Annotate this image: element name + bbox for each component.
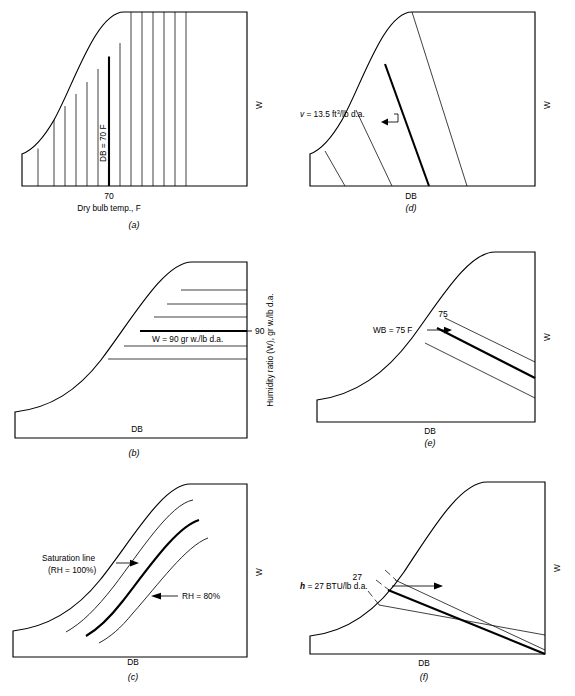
panel-b-y-tick: 90: [255, 326, 265, 336]
panel-c-y-axis-title: W: [254, 568, 264, 576]
panel-d-y-axis-title: W: [542, 101, 552, 109]
panel-d-label-suffix: /lb d.a.: [340, 109, 365, 119]
panel-b-humidity-lines: [108, 290, 247, 359]
panel-c: Saturation line (RH = 100%) RH = 80% DB …: [13, 484, 264, 682]
panel-c-saturation-arrowhead: [130, 560, 139, 567]
panel-e-y-axis-title: W: [542, 333, 552, 341]
panel-c-rh-arrowhead: [151, 593, 161, 600]
panel-d-arrowhead: [381, 119, 388, 126]
panel-a-x-tick: 70: [104, 191, 114, 201]
panel-f-line-label: h = 27 BTU/lb d.a.: [300, 581, 368, 591]
panel-a-line-label: DB = 70 F: [98, 124, 108, 162]
panel-b: 90 W = 90 gr w./lb d.a. DB Humidity rati…: [15, 262, 275, 458]
panel-a-outline: [22, 12, 247, 186]
panel-d: v = 13.5 ft3/lb d.a. DB W (d): [300, 12, 552, 213]
panel-a-db-lines: [38, 12, 186, 186]
panel-f-x-axis-title: DB: [418, 658, 430, 668]
panel-e: 75 WB = 75 F DB W (e): [317, 252, 552, 448]
panel-f: 27 h = 27 BTU/lb d.a. DB W (f): [300, 482, 562, 682]
panel-f-dash-3: [368, 591, 380, 606]
panel-f-y-axis-title: W: [552, 564, 562, 572]
panel-d-label-main: = 13.5 ft: [304, 109, 337, 119]
panel-d-volume-lines: [325, 12, 467, 186]
panel-e-outline: [317, 252, 535, 422]
panel-e-highlight-line: [437, 328, 535, 378]
panel-c-rh-label: RH = 80%: [182, 591, 221, 601]
panel-a-x-axis-title: Dry bulb temp., F: [77, 203, 141, 213]
panel-b-x-axis-title: DB: [131, 424, 143, 434]
panel-e-line-label: WB = 75 F: [373, 325, 412, 335]
panel-b-caption: (b): [129, 448, 140, 458]
panel-e-arrowhead: [444, 327, 452, 334]
panel-f-dash-1: [385, 570, 396, 580]
panel-b-line-label: W = 90 gr w./lb d.a.: [152, 334, 223, 344]
panel-e-caption: (e): [425, 438, 436, 448]
panel-c-saturation-label-line1: Saturation line: [42, 553, 95, 563]
panel-d-outline: [310, 12, 535, 186]
panel-d-caption: (d): [406, 203, 417, 213]
panel-b-outline: [15, 262, 247, 438]
panel-d-highlight-line: [385, 64, 429, 186]
panel-c-saturation-label-line2: (RH = 100%): [48, 565, 96, 575]
panel-d-leader: [387, 114, 398, 122]
panel-f-arrowhead: [434, 583, 443, 590]
panel-a: DB = 70 F 70 Dry bulb temp., F W (a): [22, 12, 264, 230]
panel-e-x-axis-title: DB: [424, 426, 436, 436]
panel-d-x-axis-title: DB: [405, 191, 417, 201]
panel-c-caption: (c): [128, 672, 139, 682]
panel-a-y-axis-title: W: [254, 101, 264, 109]
panel-f-dash-2: [376, 580, 389, 590]
panel-f-highlight-line: [388, 590, 545, 654]
panel-c-highlight-curve: [86, 520, 199, 636]
psychrometric-chart-figure: DB = 70 F 70 Dry bulb temp., F W (a) v =…: [0, 0, 575, 696]
panel-f-label-main: = 27 BTU/lb d.a.: [305, 581, 368, 591]
panel-f-caption: (f): [420, 672, 429, 682]
panel-f-enthalpy-lines: [368, 570, 545, 654]
panel-e-curve-tick: 75: [438, 309, 448, 319]
panel-a-caption: (a): [129, 220, 140, 230]
panel-c-x-axis-title: DB: [127, 657, 139, 667]
panel-d-line-label: v = 13.5 ft3/lb d.a.: [300, 109, 365, 119]
panel-f-outline: [310, 482, 545, 654]
panel-b-y-axis-title: Humidity ratio (W), gr w./lb d.a.: [265, 293, 275, 406]
